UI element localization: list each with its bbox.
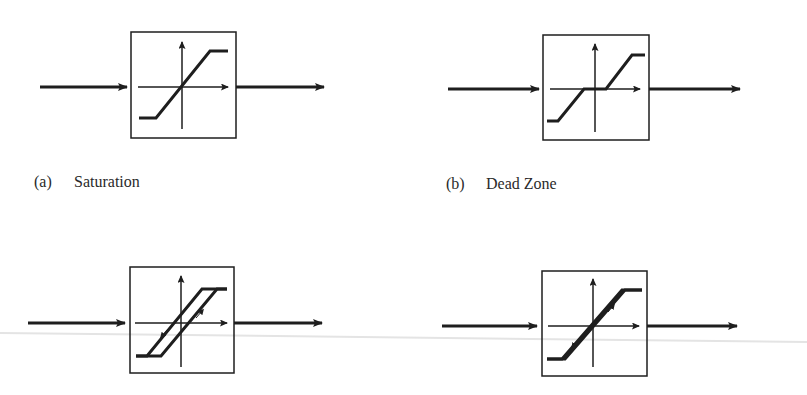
caption-b: (b)Dead Zone	[446, 175, 557, 193]
saturation-curve	[139, 51, 228, 118]
nonlinearity-figure	[0, 0, 807, 395]
caption-b-label: Dead Zone	[486, 175, 557, 192]
panel-b-dead-zone	[448, 35, 740, 140]
caption-a-label: Saturation	[74, 173, 140, 190]
scan-artifact-line	[0, 333, 807, 342]
caption-a-tag: (a)	[34, 173, 74, 191]
panel-c-hysteresis	[28, 267, 322, 373]
panel-d-narrow-hysteresis	[442, 271, 737, 376]
caption-b-tag: (b)	[446, 175, 486, 193]
caption-a: (a)Saturation	[34, 173, 140, 191]
hysteresis-rising-branch	[547, 290, 642, 359]
dead-zone-curve	[547, 55, 645, 121]
panel-a-saturation	[40, 32, 324, 138]
